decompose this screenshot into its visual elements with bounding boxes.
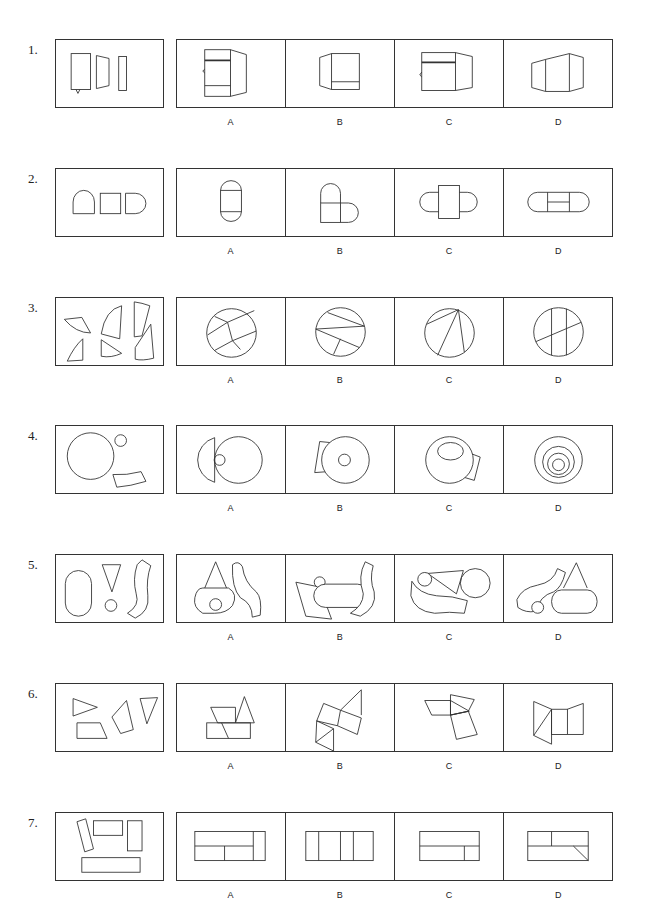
- option-c[interactable]: [395, 813, 504, 880]
- option-label: B: [285, 890, 394, 900]
- question-figure: [55, 297, 164, 366]
- option-shapes: [504, 426, 612, 493]
- option-c[interactable]: [395, 169, 504, 236]
- options-panel: [176, 425, 613, 494]
- option-shapes: [395, 298, 503, 365]
- option-shapes: [395, 169, 503, 236]
- option-label: D: [504, 761, 613, 771]
- option-label: D: [504, 890, 613, 900]
- option-shapes: [177, 684, 285, 751]
- option-c[interactable]: [395, 426, 504, 493]
- option-label: D: [504, 246, 613, 256]
- option-c[interactable]: [395, 298, 504, 365]
- option-label: A: [176, 632, 285, 642]
- question-figure: [55, 425, 164, 494]
- option-d[interactable]: [504, 555, 612, 622]
- option-label: B: [285, 632, 394, 642]
- option-shapes: [286, 169, 394, 236]
- option-shapes: [395, 684, 503, 751]
- option-label: D: [504, 503, 613, 513]
- option-shapes: [395, 426, 503, 493]
- option-c[interactable]: [395, 555, 504, 622]
- option-label: B: [285, 117, 394, 127]
- option-shapes: [286, 813, 394, 880]
- option-shapes: [177, 426, 285, 493]
- option-shapes: [177, 298, 285, 365]
- option-shapes: [286, 298, 394, 365]
- option-label: C: [395, 890, 504, 900]
- option-shapes: [177, 813, 285, 880]
- option-label: A: [176, 503, 285, 513]
- option-label: B: [285, 503, 394, 513]
- question-figure: [55, 683, 164, 752]
- options-panel: [176, 554, 613, 623]
- option-shapes: [504, 169, 612, 236]
- option-shapes: [504, 813, 612, 880]
- option-shapes: [177, 555, 285, 622]
- option-a[interactable]: [177, 426, 286, 493]
- options-panel: [176, 812, 613, 881]
- option-label: B: [285, 375, 394, 385]
- question-number: 2.: [28, 171, 38, 187]
- option-d[interactable]: [504, 169, 612, 236]
- question-number: 7.: [28, 815, 38, 831]
- option-label: C: [395, 503, 504, 513]
- option-shapes: [395, 813, 503, 880]
- question-figure: [55, 168, 164, 237]
- option-d[interactable]: [504, 298, 612, 365]
- question-figure: [55, 554, 164, 623]
- option-shapes: [286, 684, 394, 751]
- options-panel: [176, 168, 613, 237]
- question-shapes: [56, 298, 163, 365]
- option-shapes: [395, 555, 503, 622]
- option-label: C: [395, 632, 504, 642]
- question-number: 4.: [28, 428, 38, 444]
- question-shapes: [56, 813, 163, 880]
- option-label: A: [176, 246, 285, 256]
- option-label: B: [285, 246, 394, 256]
- option-label: D: [504, 375, 613, 385]
- option-label: C: [395, 375, 504, 385]
- option-b[interactable]: [286, 684, 395, 751]
- option-shapes: [286, 426, 394, 493]
- option-b[interactable]: [286, 298, 395, 365]
- option-a[interactable]: [177, 684, 286, 751]
- question-shapes: [56, 169, 163, 236]
- option-shapes: [177, 169, 285, 236]
- option-shapes: [504, 684, 612, 751]
- option-label: A: [176, 117, 285, 127]
- option-b[interactable]: [286, 426, 395, 493]
- option-b[interactable]: [286, 813, 395, 880]
- option-label: A: [176, 375, 285, 385]
- option-a[interactable]: [177, 555, 286, 622]
- question-figure: [55, 812, 164, 881]
- option-a[interactable]: [177, 169, 286, 236]
- option-d[interactable]: [504, 426, 612, 493]
- options-panel: [176, 297, 613, 366]
- option-label: C: [395, 246, 504, 256]
- question-row-7: 7.ABCD: [0, 0, 649, 100]
- option-label: B: [285, 761, 394, 771]
- option-label: A: [176, 761, 285, 771]
- option-b[interactable]: [286, 555, 395, 622]
- option-label: D: [504, 117, 613, 127]
- option-label: C: [395, 761, 504, 771]
- option-b[interactable]: [286, 169, 395, 236]
- option-label: C: [395, 117, 504, 127]
- option-shapes: [504, 555, 612, 622]
- question-number: 3.: [28, 300, 38, 316]
- option-a[interactable]: [177, 298, 286, 365]
- option-d[interactable]: [504, 813, 612, 880]
- option-a[interactable]: [177, 813, 286, 880]
- question-number: 6.: [28, 686, 38, 702]
- option-shapes: [504, 298, 612, 365]
- question-shapes: [56, 426, 163, 493]
- option-c[interactable]: [395, 684, 504, 751]
- option-label: A: [176, 890, 285, 900]
- question-shapes: [56, 684, 163, 751]
- option-label: D: [504, 632, 613, 642]
- question-number: 5.: [28, 557, 38, 573]
- options-panel: [176, 683, 613, 752]
- option-d[interactable]: [504, 684, 612, 751]
- option-shapes: [286, 555, 394, 622]
